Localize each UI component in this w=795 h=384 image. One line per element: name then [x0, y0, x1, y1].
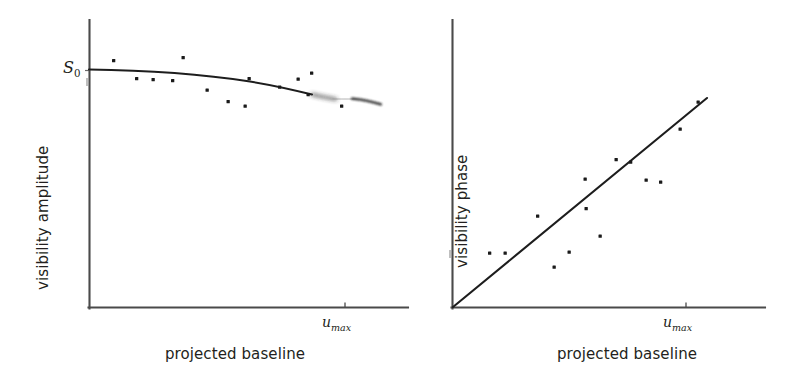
amplitude-fit-curve — [89, 70, 381, 105]
amplitude-y-axis-title: visibility amplitude — [34, 146, 52, 290]
figure-root: visibility amplitude projected baseline … — [0, 0, 795, 384]
s0-symbol: S — [63, 58, 74, 77]
data-point — [488, 252, 491, 255]
data-point — [278, 86, 281, 89]
data-point — [629, 161, 632, 164]
amplitude-x-axis-title: projected baseline — [140, 345, 330, 363]
data-point — [297, 78, 300, 81]
amplitude-data-points — [112, 56, 343, 108]
amplitude-umax-label: umax — [322, 314, 351, 333]
data-point — [182, 56, 185, 59]
data-point — [248, 77, 251, 80]
data-point — [112, 59, 115, 62]
data-point — [171, 79, 174, 82]
umax-symbol: u — [322, 314, 331, 330]
phase-x-axis-title: projected baseline — [532, 345, 722, 363]
visibility-amplitude-panel: visibility amplitude projected baseline … — [0, 0, 420, 384]
phase-umax-label: umax — [663, 314, 692, 333]
data-point — [697, 101, 700, 104]
data-point — [645, 179, 648, 182]
data-point — [504, 252, 507, 255]
data-point — [615, 158, 618, 161]
data-point — [585, 207, 588, 210]
phase-data-points — [488, 101, 700, 269]
data-point — [599, 235, 602, 238]
data-point — [553, 266, 556, 269]
data-point — [584, 178, 587, 181]
data-point — [135, 77, 138, 80]
amplitude-s0-label: S0 — [63, 58, 80, 79]
data-point — [536, 215, 539, 218]
phase-y-axis-title: visibility phase — [453, 155, 471, 268]
amplitude-axes — [85, 20, 408, 309]
data-point — [659, 181, 662, 184]
umax-subscript: max — [672, 322, 692, 333]
phase-fit-line — [453, 98, 707, 307]
s0-subscript: 0 — [74, 67, 81, 79]
phase-plot-canvas — [420, 0, 795, 384]
visibility-phase-panel: visibility phase projected baseline umax — [420, 0, 795, 384]
data-point — [244, 105, 247, 108]
data-point — [152, 78, 155, 81]
umax-symbol: u — [663, 314, 672, 330]
data-point — [310, 72, 313, 75]
data-point — [340, 105, 343, 108]
data-point — [568, 251, 571, 254]
data-point — [206, 89, 209, 92]
umax-subscript: max — [331, 322, 351, 333]
phase-axes — [450, 20, 765, 309]
data-point — [307, 93, 310, 96]
data-point — [227, 100, 230, 103]
data-point — [679, 128, 682, 131]
